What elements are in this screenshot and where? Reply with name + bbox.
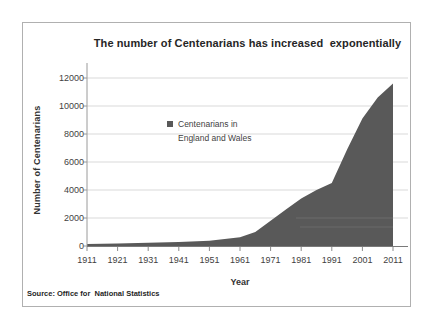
area-series-centenarians [87, 84, 393, 247]
legend: Centenarians in England and Wales [167, 118, 251, 145]
y-tick-label-12000: 12000 [39, 73, 84, 84]
x-axis-title: Year [190, 277, 290, 287]
x-tick-label-1991: 1991 [315, 255, 349, 266]
x-tick-label-1971: 1971 [254, 255, 288, 266]
chart-figure: The number of Centenarians has increased… [0, 0, 434, 332]
x-tick-label-1921: 1921 [101, 255, 135, 266]
legend-label: Centenarians in England and Wales [178, 118, 251, 145]
x-tick-label-1981: 1981 [284, 255, 318, 266]
y-tick-label-0: 0 [39, 241, 84, 252]
x-tick-label-1941: 1941 [162, 255, 196, 266]
x-tick-label-2011: 2011 [376, 255, 410, 266]
legend-marker-square [167, 121, 173, 127]
y-tick-label-4000: 4000 [39, 185, 84, 196]
x-tick-label-2001: 2001 [345, 255, 379, 266]
y-tick-label-2000: 2000 [39, 213, 84, 224]
x-tick-label-1911: 1911 [70, 255, 104, 266]
chart-title: The number of Centenarians has increased… [87, 37, 408, 49]
x-tick-label-1961: 1961 [223, 255, 257, 266]
legend-label-line1: Centenarians in [178, 118, 251, 132]
y-tick-label-8000: 8000 [39, 129, 84, 140]
legend-label-line2: England and Wales [178, 132, 251, 146]
x-tick-label-1931: 1931 [131, 255, 165, 266]
y-tick-label-10000: 10000 [39, 101, 84, 112]
x-tick-label-1951: 1951 [192, 255, 226, 266]
y-tick-label-6000: 6000 [39, 157, 84, 168]
source-note: Source: Office for National Statistics [27, 289, 160, 298]
